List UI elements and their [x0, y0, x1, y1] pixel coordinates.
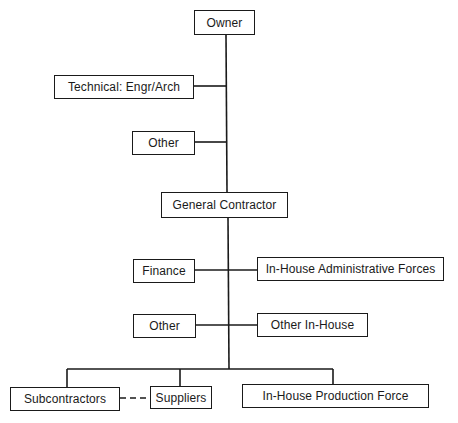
other-gc-label: Other	[149, 319, 180, 333]
other-inhouse-box: Other In-House	[257, 313, 368, 337]
other-owner-box: Other	[132, 131, 195, 155]
gc-trunk-line	[228, 218, 229, 369]
technical-engr-arch-box: Technical: Engr/Arch	[54, 75, 194, 99]
inhouse-production-label: In-House Production Force	[263, 389, 409, 403]
other-inhouse-label: Other In-House	[271, 318, 354, 332]
suppliers-label: Suppliers	[156, 391, 207, 405]
general-contractor-box: General Contractor	[161, 192, 288, 218]
inhouse-admin-box: In-House Administrative Forces	[257, 257, 444, 281]
owner-box: Owner	[194, 10, 255, 35]
owner-label: Owner	[207, 16, 243, 30]
subcontractors-label: Subcontractors	[24, 392, 106, 406]
inhouse-production-box: In-House Production Force	[242, 384, 429, 408]
other-gc-box: Other	[133, 314, 196, 338]
technical-label: Technical: Engr/Arch	[68, 80, 180, 94]
subcontractors-box: Subcontractors	[10, 387, 120, 411]
finance-label: Finance	[142, 264, 185, 278]
org-chart: Owner Technical: Engr/Arch Other General…	[0, 0, 458, 423]
suppliers-box: Suppliers	[150, 386, 212, 409]
other-owner-label: Other	[148, 136, 179, 150]
finance-box: Finance	[133, 259, 195, 283]
owner-trunk-line	[226, 35, 227, 192]
inhouse-admin-label: In-House Administrative Forces	[266, 262, 436, 276]
general-contractor-label: General Contractor	[173, 198, 277, 212]
